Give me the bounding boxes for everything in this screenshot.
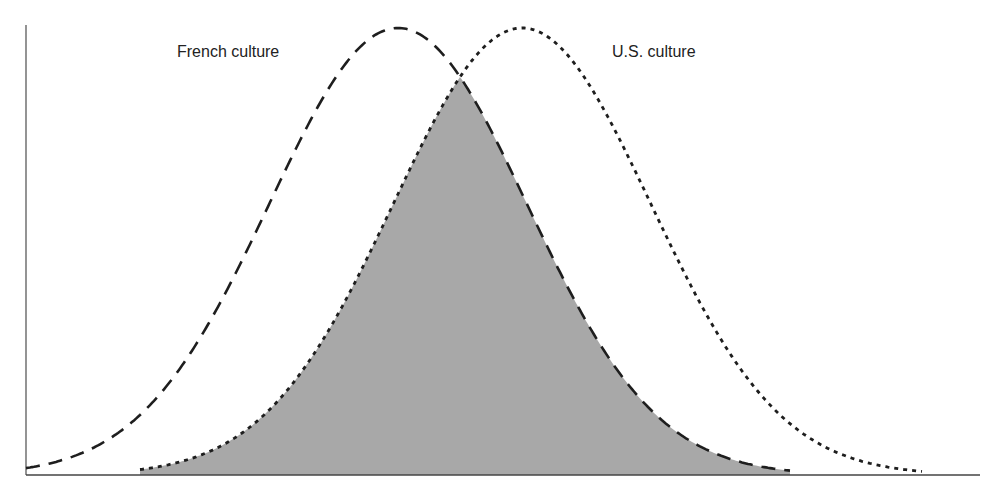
plot-area: [0, 0, 987, 490]
overlap-shaded-region: [140, 77, 790, 475]
overlapping-distributions-figure: French culture U.S. culture: [0, 0, 987, 490]
us-culture-label: U.S. culture: [612, 43, 696, 61]
french-culture-label: French culture: [177, 43, 279, 61]
